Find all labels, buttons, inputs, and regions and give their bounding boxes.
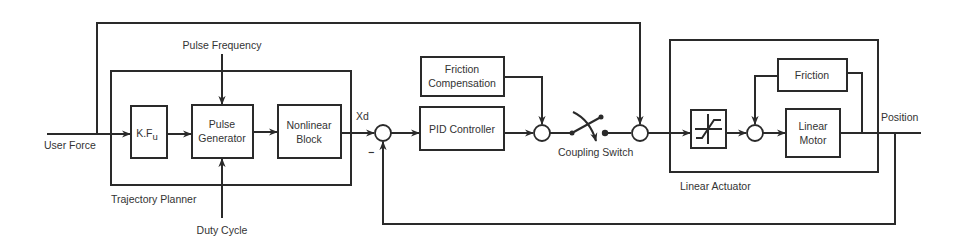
nonlinear-line1: Nonlinear (287, 119, 332, 131)
coupling-switch-label: Coupling Switch (558, 146, 633, 158)
summing-junction-1 (375, 125, 391, 141)
summing-junction-2 (534, 125, 550, 141)
minus-sign: − (368, 146, 374, 158)
coupling-switch[interactable] (570, 112, 609, 141)
switch-arm[interactable] (572, 117, 601, 133)
linear-actuator-label: Linear Actuator (680, 180, 751, 192)
friction-label: Friction (795, 69, 830, 81)
nonlinear-block (278, 105, 341, 158)
pulse-frequency-label: Pulse Frequency (183, 39, 263, 51)
pulse-generator-line1: Pulse (209, 118, 235, 130)
saturation-block (691, 110, 726, 148)
summing-junction-3 (632, 125, 648, 141)
friction-loop-wire (847, 73, 862, 133)
duty-cycle-label: Duty Cycle (197, 224, 248, 236)
friction-comp-line2: Compensation (428, 77, 496, 89)
friction-to-sum4-wire (755, 76, 778, 124)
position-label: Position (881, 111, 919, 123)
pulse-generator-line2: Generator (198, 132, 246, 144)
friction-comp-wire (504, 77, 542, 124)
block-diagram: K.Fu Pulse Generator Nonlinear Block Fri… (0, 0, 967, 240)
linear-motor-line1: Linear (798, 120, 828, 132)
summing-junction-4 (747, 125, 763, 141)
pid-controller-label: PID Controller (429, 123, 495, 135)
friction-comp-line1: Friction (445, 63, 480, 75)
user-force-label: User Force (44, 139, 96, 151)
linear-motor-block (786, 109, 840, 157)
trajectory-planner-label: Trajectory Planner (111, 193, 197, 205)
xd-label: Xd (356, 110, 369, 122)
nonlinear-line2: Block (296, 133, 322, 145)
linear-motor-line2: Motor (800, 134, 827, 146)
